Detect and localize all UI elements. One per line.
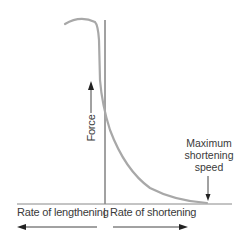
force-arrow-head-icon: [88, 81, 94, 90]
lengthening-arrow-head-icon: [17, 224, 26, 230]
max-speed-annotation: Maximum shortening speed: [182, 137, 236, 173]
lengthening-label: Rate of lengthening: [17, 206, 109, 218]
shortening-label: Rate of shortening: [110, 206, 196, 218]
annotation-line-2: shortening: [182, 149, 236, 161]
annotation-line-1: Maximum: [182, 137, 236, 149]
shortening-arrow-head-icon: [179, 224, 188, 230]
max-speed-arrow-head-icon: [206, 194, 211, 201]
annotation-line-3: speed: [182, 161, 236, 173]
axis-separator: |: [103, 206, 106, 218]
force-velocity-curve: [65, 19, 207, 203]
force-label: Force: [85, 113, 97, 143]
